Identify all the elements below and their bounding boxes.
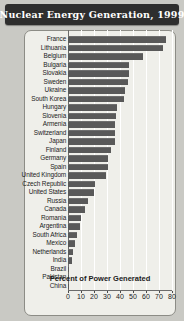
bar-row: Spain: [0, 163, 184, 172]
bar-row: South Korea: [0, 95, 184, 104]
category-label: Lithuania: [5, 44, 68, 53]
category-label: United States: [5, 188, 68, 197]
category-label: Finland: [5, 146, 68, 155]
bar-row: Switzerland: [0, 129, 184, 138]
bar-track: [68, 103, 172, 112]
bar-track: [68, 69, 172, 78]
bar: [68, 215, 81, 222]
category-label: Romania: [5, 214, 68, 223]
bar-row: Bulgaria: [0, 61, 184, 70]
bar-track: [68, 120, 172, 129]
bar: [68, 130, 115, 137]
bar-track: [68, 231, 172, 240]
bar: [68, 147, 111, 154]
bar: [68, 96, 124, 103]
bar-row: Netherlands: [0, 248, 184, 257]
bar-row: United States: [0, 188, 184, 197]
category-label: Canada: [5, 205, 68, 214]
x-axis-ticks: 01020304050607080: [68, 291, 172, 301]
bar: [68, 240, 75, 247]
category-label: Switzerland: [5, 129, 68, 138]
category-label: Armenia: [5, 120, 68, 129]
tick-label-10: 10: [77, 293, 85, 301]
bar: [68, 257, 72, 264]
bar-row: Russia: [0, 197, 184, 206]
tick-label-80: 80: [168, 293, 176, 301]
bar: [68, 172, 106, 179]
tick-label-20: 20: [90, 293, 98, 301]
bar-track: [68, 265, 172, 274]
category-label: Slovenia: [5, 112, 68, 121]
chart-title: Nuclear Energy Generation, 1999: [0, 9, 184, 20]
bar-track: [68, 163, 172, 172]
bar: [68, 155, 108, 162]
bar: [68, 138, 115, 145]
category-label: Slovakia: [5, 69, 68, 78]
category-label: Spain: [5, 163, 68, 172]
category-label: South Korea: [5, 95, 68, 104]
category-label: Brazil: [5, 265, 68, 274]
bar: [68, 62, 129, 69]
x-axis-label: Percent of Power Generated: [24, 274, 176, 283]
category-label: India: [5, 256, 68, 265]
bar: [68, 79, 128, 86]
bar: [68, 223, 80, 230]
bar-row: Mexico: [0, 239, 184, 248]
tick-label-70: 70: [155, 293, 163, 301]
bar-row: Romania: [0, 214, 184, 223]
bar-row: Brazil: [0, 265, 184, 274]
bar-row: Germany: [0, 154, 184, 163]
category-label: South Africa: [5, 231, 68, 240]
chart-title-bar: Nuclear Energy Generation, 1999: [5, 4, 179, 25]
bar: [68, 249, 73, 256]
category-label: Hungary: [5, 103, 68, 112]
bar-row: Finland: [0, 146, 184, 155]
bar-track: [68, 86, 172, 95]
bar-track: [68, 180, 172, 189]
tick-label-30: 30: [103, 293, 111, 301]
bar-row: Ukraine: [0, 86, 184, 95]
bar-track: [68, 61, 172, 70]
bar: [68, 232, 77, 239]
tick-label-50: 50: [129, 293, 137, 301]
bar-track: [68, 197, 172, 206]
bar-track: [68, 222, 172, 231]
bar-track: [68, 35, 172, 44]
category-label: United Kingdom: [5, 171, 68, 180]
bar: [68, 283, 69, 290]
bar: [68, 53, 143, 60]
category-label: Mexico: [5, 239, 68, 248]
tick-label-40: 40: [116, 293, 124, 301]
category-label: Bulgaria: [5, 61, 68, 70]
bar: [68, 266, 69, 273]
bar-row: Slovakia: [0, 69, 184, 78]
category-label: Japan: [5, 137, 68, 146]
bar: [68, 206, 85, 213]
bar-track: [68, 112, 172, 121]
bar: [68, 121, 115, 128]
category-label: Russia: [5, 197, 68, 206]
bar-row: Slovenia: [0, 112, 184, 121]
bar-row: South Africa: [0, 231, 184, 240]
bar-track: [68, 78, 172, 87]
bar-track: [68, 95, 172, 104]
tick-label-0: 0: [66, 293, 70, 301]
bar-row: India: [0, 256, 184, 265]
bar: [68, 36, 166, 43]
category-label: France: [5, 35, 68, 44]
bar: [68, 198, 88, 205]
bar-row: Hungary: [0, 103, 184, 112]
category-label: Argentina: [5, 222, 68, 231]
category-label: Ukraine: [5, 86, 68, 95]
category-label: Belgium: [5, 52, 68, 61]
bar-track: [68, 205, 172, 214]
category-label: Germany: [5, 154, 68, 163]
bar: [68, 113, 116, 120]
bar: [68, 181, 95, 188]
chart-figure: Nuclear Energy Generation, 1999 FranceLi…: [0, 0, 184, 321]
bar-row: Lithuania: [0, 44, 184, 53]
bar-track: [68, 188, 172, 197]
bar-row: Belgium: [0, 52, 184, 61]
bar-row: Japan: [0, 137, 184, 146]
bar-row: United Kingdom: [0, 171, 184, 180]
